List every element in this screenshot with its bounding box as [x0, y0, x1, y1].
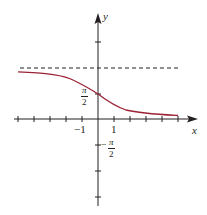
x-tick-label-minus1: −1 [74, 124, 86, 135]
neg-pi-half-denominator: 2 [108, 149, 115, 159]
x-axis-label: x [192, 125, 197, 136]
pi-half-numerator: π [81, 86, 88, 97]
y-tick-label-pi-half: π 2 [81, 86, 88, 107]
arccot-graph [0, 0, 207, 215]
neg-sign: − [101, 140, 107, 150]
x-tick-label-1: 1 [111, 124, 117, 135]
arccot-curve [18, 9, 98, 72]
y-tick-label-neg-pi-half: π 2 [108, 138, 115, 159]
neg-pi-half-numerator: π [108, 138, 115, 149]
pi-half-denominator: 2 [81, 97, 88, 107]
y-axis-label: y [103, 11, 108, 22]
